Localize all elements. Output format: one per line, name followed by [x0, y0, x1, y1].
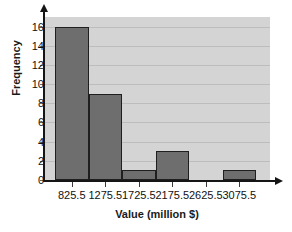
x-tick-mark — [72, 182, 73, 187]
x-tick-label: 3075.5 — [209, 189, 269, 201]
x-tick-mark — [105, 182, 106, 187]
x-tick-mark — [206, 182, 207, 187]
x-tick-mark — [239, 182, 240, 187]
x-axis-title: Value (million $) — [44, 208, 270, 220]
x-tick-mark — [139, 182, 140, 187]
histogram-figure: 0246810121416 825.51275.51725.52175.5262… — [0, 0, 292, 232]
x-tick-mark — [172, 182, 173, 187]
y-axis-title: Frequency — [10, 8, 22, 128]
x-axis-ticks: 825.51275.51725.52175.52625.53075.5 — [0, 0, 292, 232]
